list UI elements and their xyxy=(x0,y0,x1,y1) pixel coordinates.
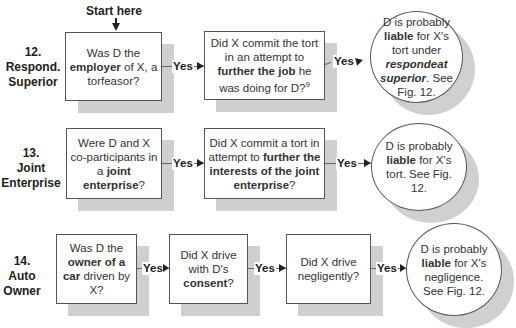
text-bold: liable xyxy=(422,257,451,269)
arrow-right-icon xyxy=(364,159,371,167)
start-arrow-icon xyxy=(112,23,120,31)
text: ? xyxy=(139,179,145,191)
yes-label: Yes xyxy=(254,262,276,275)
text: D is probably xyxy=(420,243,487,255)
row-title-line1: Auto xyxy=(0,269,44,284)
text: D is probably xyxy=(383,16,450,28)
yes-label: Yes xyxy=(336,157,358,170)
text-bold: further the job xyxy=(218,65,296,77)
text: ? xyxy=(227,277,233,289)
question-box-consent: Did X drive with D's consent? xyxy=(169,234,248,304)
text: Was D the xyxy=(87,47,140,59)
question-box-joint-enterprise: Were D and X co-participants in a joint … xyxy=(66,128,162,199)
row-label-respondeat-superior: 12. Respond. Superior xyxy=(2,45,64,90)
row-number: 13. xyxy=(0,146,62,161)
row-title-line1: Respond. xyxy=(2,60,64,75)
text: ? xyxy=(289,179,295,191)
result-circle-joint: D is probably liable for X's tort. See F… xyxy=(371,123,467,211)
result-circle-respondeat: D is probably liable for X's tort under … xyxy=(370,11,463,103)
row-title-line2: Owner xyxy=(0,284,44,299)
text-bold: liable xyxy=(384,30,413,42)
yes-label: Yes xyxy=(172,60,194,73)
yes-label: Yes xyxy=(142,262,164,275)
row-number: 14. xyxy=(0,254,44,269)
question-box-further-interests: Did X commit a tort in attempt to furthe… xyxy=(204,128,325,199)
arrow-right-icon xyxy=(355,56,364,66)
arrow-right-icon xyxy=(197,159,204,167)
yes-label: Yes xyxy=(172,157,194,170)
arrow-right-icon xyxy=(197,62,204,70)
result-circle-negligence: D is probably liable for X's negligence.… xyxy=(406,223,502,316)
row-label-joint-enterprise: 13. Joint Enterprise xyxy=(0,146,62,191)
text: Did X drive negligently? xyxy=(298,256,359,282)
question-box-employer: Was D the employer of X, a torfeasor? xyxy=(65,32,162,101)
row-title-line1: Joint xyxy=(0,161,62,176)
question-box-negligently: Did X drive negligently? xyxy=(286,234,371,304)
text-bold: consent xyxy=(183,277,227,289)
row-title-line2: Enterprise xyxy=(0,176,62,191)
text-bold: joint enterprise xyxy=(83,165,139,191)
row-title-line2: Superior xyxy=(2,75,64,90)
text: Was D the xyxy=(70,242,123,254)
yes-label: Yes xyxy=(333,55,355,68)
arrow-right-icon xyxy=(279,264,286,272)
question-box-car-owner: Was D the owner of a car driven by X? xyxy=(56,234,137,304)
row-number: 12. xyxy=(2,45,64,60)
question-box-further-job: Did X commit the tort in an attempt to f… xyxy=(204,31,325,100)
text-bold: liable xyxy=(387,154,416,166)
text: driven by X? xyxy=(80,270,130,296)
yes-label: Yes xyxy=(376,262,398,275)
text: D is probably xyxy=(385,140,452,152)
footnote-marker: 9 xyxy=(305,80,309,89)
text-bold: employer xyxy=(70,61,121,73)
start-here-label: Start here xyxy=(86,4,142,18)
row-label-auto-owner: 14. Auto Owner xyxy=(0,254,44,299)
text: Did X commit the tort in an attempt to xyxy=(211,37,318,63)
text: Did X drive with D's xyxy=(180,249,236,275)
